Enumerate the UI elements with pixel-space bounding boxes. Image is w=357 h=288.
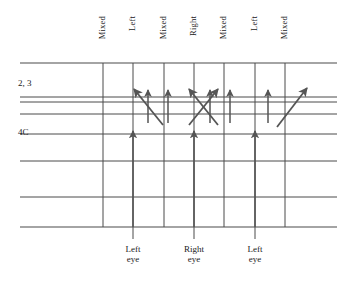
eye-label-1: Righteye	[164, 244, 224, 265]
eye-label-line1: Left	[103, 244, 163, 254]
eye-label-line1: Right	[164, 244, 224, 254]
column-label-4: Mixed	[219, 16, 228, 39]
thalamic-input-arrows	[133, 131, 255, 227]
diagonal-projection-arrow	[277, 88, 307, 127]
eye-label-0: Lefteye	[103, 244, 163, 265]
layer-boundary-lines	[20, 63, 337, 227]
column-label-5: Left	[250, 16, 259, 31]
eye-label-line2: eye	[103, 254, 163, 264]
column-label-0: Mixed	[98, 16, 107, 39]
column-label-6: Mixed	[280, 16, 289, 39]
layer-label-0: 2, 3	[18, 79, 32, 88]
eye-label-line2: eye	[164, 254, 224, 264]
vertical-projection-arrows	[148, 90, 268, 123]
figure-canvas: MixedLeftMixedRightMixedLeftMixed 2, 34C…	[0, 0, 357, 288]
column-label-3: Right	[189, 16, 198, 36]
eye-label-line1: Left	[225, 244, 285, 254]
layer-label-1: 4C	[18, 128, 29, 137]
diagonal-projection-arrows	[134, 88, 307, 127]
column-label-1: Left	[128, 16, 137, 31]
eye-label-2: Lefteye	[225, 244, 285, 265]
column-label-2: Mixed	[159, 16, 168, 39]
eye-label-line2: eye	[225, 254, 285, 264]
